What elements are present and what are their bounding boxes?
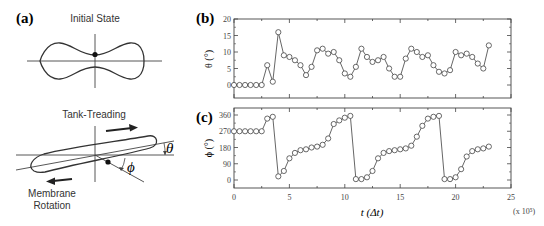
y-tick-label: 270 <box>219 127 231 136</box>
data-point-marker <box>298 148 303 153</box>
data-point-marker <box>459 167 464 172</box>
panel-b: (b) θ (°) 05101520 <box>196 10 511 98</box>
data-point-marker <box>475 61 480 66</box>
phi-symbol: ϕ <box>127 159 135 175</box>
membrane-rotation-arrow-icon <box>46 178 72 186</box>
data-point-marker <box>265 63 270 68</box>
data-point-marker <box>375 58 380 63</box>
data-point-marker <box>231 82 236 87</box>
data-point-marker <box>242 82 247 87</box>
data-point-marker <box>392 148 397 153</box>
data-point-marker <box>370 168 375 173</box>
tank-treading-title: Tank-Treading <box>62 109 126 120</box>
data-point-marker <box>326 136 331 141</box>
data-point-marker <box>359 176 364 181</box>
data-point-marker <box>292 150 297 155</box>
data-point-marker <box>331 49 336 54</box>
phi-series-line <box>234 116 489 179</box>
data-point-marker <box>287 156 292 161</box>
tank-treading-cell-shape <box>31 136 157 173</box>
x-tick-label: 0 <box>232 193 236 202</box>
y-tick-label: 10 <box>223 48 231 57</box>
data-point-marker <box>403 56 408 61</box>
data-point-marker <box>464 154 469 159</box>
data-point-marker <box>431 114 436 119</box>
data-point-marker <box>381 54 386 59</box>
y-tick-label: 20 <box>223 15 231 24</box>
initial-state-title: Initial State <box>70 13 120 24</box>
panel-a: (a) Initial State Tank-Treading <box>16 10 174 211</box>
data-point-marker <box>414 49 419 54</box>
data-point-marker <box>442 176 447 181</box>
y-tick-label: 0 <box>227 176 231 185</box>
data-point-marker <box>337 58 342 63</box>
data-point-marker <box>331 121 336 126</box>
data-point-marker <box>342 115 347 120</box>
data-point-marker <box>464 51 469 56</box>
data-point-marker <box>475 147 480 152</box>
data-point-marker <box>259 129 264 134</box>
membrane-rotation-label-line1: Membrane <box>28 188 76 199</box>
data-point-marker <box>259 82 264 87</box>
x-tick-label: 5 <box>287 193 291 202</box>
theta-symbol: θ <box>166 140 174 156</box>
data-point-marker <box>265 116 270 121</box>
tank-treading-marker-dot <box>105 159 110 164</box>
x-axis-multiplier: (x 10⁵) <box>513 207 535 216</box>
theta-series-markers <box>231 30 491 88</box>
data-point-marker <box>481 146 486 151</box>
data-point-marker <box>387 66 392 71</box>
y-tick-label: 360 <box>219 111 231 120</box>
data-point-marker <box>248 129 253 134</box>
data-point-marker <box>387 149 392 154</box>
data-point-marker <box>231 129 236 134</box>
data-point-marker <box>420 54 425 59</box>
data-point-marker <box>270 79 275 84</box>
data-point-marker <box>364 54 369 59</box>
figure: (a) Initial State Tank-Treading <box>0 0 544 226</box>
data-point-marker <box>276 30 281 35</box>
phi-axis-label: ϕ (°) <box>203 139 215 157</box>
data-point-marker <box>442 71 447 76</box>
data-point-marker <box>459 53 464 58</box>
data-point-marker <box>436 69 441 74</box>
data-point-marker <box>436 113 441 118</box>
data-point-marker <box>447 176 452 181</box>
data-point-marker <box>254 129 259 134</box>
data-point-marker <box>320 46 325 51</box>
data-point-marker <box>303 73 308 78</box>
data-point-marker <box>337 118 342 123</box>
data-point-marker <box>364 175 369 180</box>
data-point-marker <box>403 146 408 151</box>
data-point-marker <box>420 123 425 128</box>
data-point-marker <box>453 49 458 54</box>
phi-series-markers <box>231 113 491 181</box>
y-tick-label: 90 <box>223 160 231 169</box>
data-point-marker <box>242 129 247 134</box>
data-point-marker <box>486 43 491 48</box>
data-point-marker <box>320 142 325 147</box>
x-tick-label: 15 <box>396 193 404 202</box>
y-tick-label: 180 <box>219 144 231 153</box>
data-point-marker <box>348 74 353 79</box>
data-point-marker <box>470 54 475 59</box>
data-point-marker <box>348 113 353 118</box>
data-point-marker <box>453 175 458 180</box>
x-tick-labels: 0510152025 <box>232 193 515 202</box>
tank-treading-arrow-icon <box>106 124 138 132</box>
data-point-marker <box>281 168 286 173</box>
data-point-marker <box>381 150 386 155</box>
data-point-marker <box>370 59 375 64</box>
data-point-marker <box>414 134 419 139</box>
data-point-marker <box>486 144 491 149</box>
data-point-marker <box>237 129 242 134</box>
data-point-marker <box>447 68 452 73</box>
x-tick-label: 25 <box>507 193 515 202</box>
data-point-marker <box>470 149 475 154</box>
data-point-marker <box>309 64 314 69</box>
data-point-marker <box>425 116 430 121</box>
data-point-marker <box>326 51 331 56</box>
data-point-marker <box>303 147 308 152</box>
data-point-marker <box>292 58 297 63</box>
data-point-marker <box>315 48 320 53</box>
